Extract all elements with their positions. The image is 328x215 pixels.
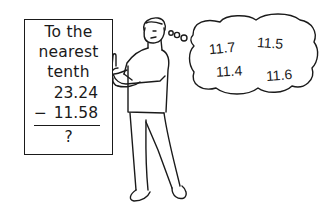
instruction-line-3: tenth: [25, 62, 112, 82]
legs-icon: [130, 113, 186, 201]
minus-sign: −: [34, 103, 47, 123]
arm-pointing-icon: [111, 54, 165, 87]
guess-4: 11.6: [265, 66, 292, 84]
sum-rule-divider: [34, 125, 100, 126]
instruction-line-1: To the: [25, 22, 112, 42]
thought-dots-icon: [169, 31, 187, 41]
head-icon: [144, 18, 166, 50]
answer-placeholder: ?: [25, 127, 112, 147]
guess-1: 11.7: [208, 39, 236, 58]
minuend: 23.24: [54, 83, 98, 103]
torso-icon: [124, 48, 169, 113]
guess-2: 11.5: [256, 34, 283, 52]
guess-3: 11.4: [216, 62, 243, 79]
instruction-line-2: nearest: [25, 42, 112, 62]
subtrahend: 11.58: [54, 103, 98, 123]
problem-card: To the nearest tenth 23.24 − 11.58 ?: [24, 19, 113, 155]
